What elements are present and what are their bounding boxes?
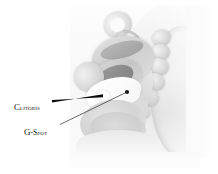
gspot-endpoint-dot (125, 90, 129, 94)
gspot-label: G-Spot (24, 122, 47, 138)
clitoris-leader-line (52, 94, 103, 102)
gspot-label-text: -Spot (31, 128, 48, 137)
clitoris-label-text: litoris (20, 103, 40, 112)
clitoris-label: Clitoris (14, 97, 40, 113)
leader-lines (0, 0, 218, 174)
figure-canvas: Clitoris G-Spot (0, 0, 218, 174)
